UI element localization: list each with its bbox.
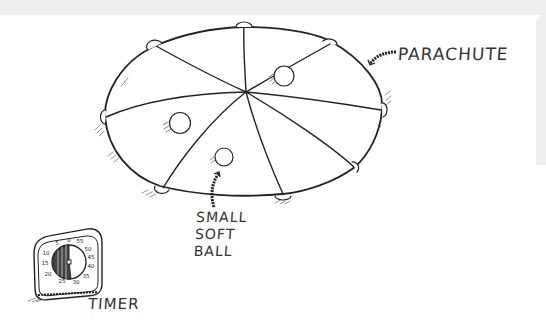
- handle: [275, 196, 291, 200]
- ground-shading: [95, 78, 391, 204]
- timer-knob: [67, 260, 71, 264]
- dial-number: 5: [55, 240, 59, 246]
- handle: [236, 22, 252, 27]
- ball: [170, 113, 191, 134]
- panel-seams: [106, 27, 381, 194]
- dial-number: 15: [42, 260, 49, 266]
- parachute: [95, 22, 391, 204]
- dial-number: 35: [83, 273, 90, 279]
- dial-number: 55: [77, 238, 84, 244]
- dial-number: 25: [59, 278, 66, 284]
- dial-number: 50: [85, 246, 92, 252]
- balls: [163, 66, 294, 166]
- dial-number: 20: [45, 271, 52, 277]
- timer: 0 55 50 45 40 35 30 25 20 15 10 5: [28, 228, 102, 302]
- dial-number: 40: [88, 263, 95, 269]
- ball-arrow: [212, 172, 220, 207]
- parachute-arrow: [368, 52, 396, 65]
- ball-label: SMALL SOFT BALL: [193, 209, 248, 260]
- ball: [274, 66, 294, 86]
- dial-number: 10: [43, 250, 50, 256]
- dial-number: 45: [88, 254, 95, 260]
- parachute-label: PARACHUTE: [397, 44, 509, 64]
- dial-number: 0: [67, 237, 71, 243]
- dial-number: 30: [73, 279, 80, 285]
- timer-label: TIMER: [87, 295, 140, 313]
- ball: [215, 148, 233, 166]
